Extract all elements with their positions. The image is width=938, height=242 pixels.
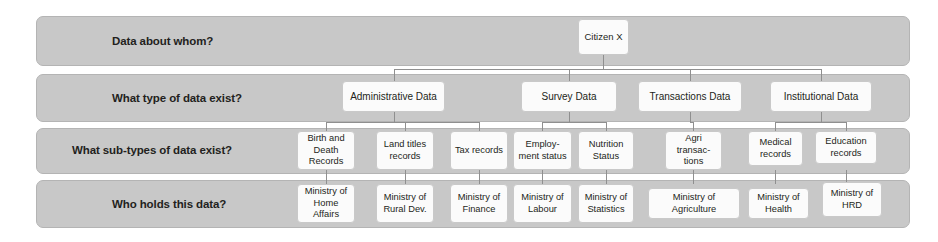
node-medical-records[interactable]: Medical records	[748, 131, 803, 166]
row-label-data-about-whom: Data about whom?	[112, 36, 213, 48]
node-ministry-of-finance[interactable]: Ministry of Finance	[450, 184, 508, 223]
connector-bus-administrative	[326, 122, 479, 123]
node-ministry-of-statistics[interactable]: Ministry of Statistics	[578, 184, 634, 223]
row-label-who-holds-data: Who holds this data?	[112, 199, 226, 211]
connector-root-stem	[603, 55, 604, 69]
connector-drop-education	[846, 122, 847, 131]
connector-drop-land-titles	[405, 122, 406, 131]
node-land-titles-records[interactable]: Land titles records	[376, 131, 434, 170]
node-tax-records[interactable]: Tax records	[450, 131, 508, 170]
connector-subtype-to-holder-3	[479, 170, 480, 184]
node-ministry-of-agriculture[interactable]: Ministry of Agriculture	[648, 188, 740, 219]
node-transactions-data[interactable]: Transactions Data	[638, 81, 742, 112]
row-label-what-sub-types: What sub-types of data exist?	[72, 145, 232, 157]
connector-bus-level1	[394, 69, 821, 70]
node-institutional-data[interactable]: Institutional Data	[770, 81, 872, 112]
connector-drop-birth-death	[326, 122, 327, 131]
row-label-what-type-of-data: What type of data exist?	[112, 93, 242, 105]
node-administrative-data[interactable]: Administrative Data	[342, 81, 445, 112]
connector-drop-agri	[693, 122, 694, 131]
connector-drop-nutrition	[606, 122, 607, 131]
connector-subtype-to-holder-1	[326, 170, 327, 184]
connector-subtype-to-holder-2	[405, 170, 406, 184]
connector-stem-transactions	[690, 112, 691, 122]
connector-stem-survey	[569, 112, 570, 122]
node-citizen-x[interactable]: Citizen X	[578, 19, 629, 55]
connector-stem-administrative	[394, 112, 395, 122]
connector-drop-transactions	[690, 69, 691, 81]
node-ministry-of-home-affairs[interactable]: Ministry of Home Affairs	[297, 184, 355, 223]
connector-bus-institutional	[775, 122, 846, 123]
connector-subtype-to-holder-7	[775, 170, 776, 184]
connector-drop-medical	[775, 122, 776, 131]
node-nutrition-status[interactable]: Nutrition Status	[578, 131, 634, 170]
node-ministry-of-rural-dev[interactable]: Ministry of Rural Dev.	[376, 184, 434, 223]
connector-drop-survey	[569, 69, 570, 81]
node-agri-transactions[interactable]: Agri transac-tions	[665, 131, 722, 170]
node-education-records[interactable]: Education records	[815, 131, 877, 164]
connector-drop-administrative	[394, 69, 395, 81]
connector-subtype-to-holder-6	[693, 170, 694, 184]
connector-subtype-to-holder-4	[542, 170, 543, 184]
connector-drop-institutional	[821, 69, 822, 81]
node-survey-data[interactable]: Survey Data	[521, 81, 617, 112]
org-hierarchy-diagram: Data about whom? What type of data exist…	[0, 0, 938, 242]
node-ministry-of-labour[interactable]: Ministry of Labour	[513, 184, 572, 223]
connector-drop-employment	[542, 122, 543, 131]
connector-stem-institutional	[821, 112, 822, 122]
node-employment-status[interactable]: Employ-ment status	[513, 131, 572, 170]
node-birth-and-death-records[interactable]: Birth and Death Records	[297, 131, 355, 170]
node-ministry-of-health[interactable]: Ministry of Health	[748, 188, 809, 219]
connector-drop-tax	[479, 122, 480, 131]
connector-bus-survey	[542, 122, 606, 123]
connector-subtype-to-holder-5	[606, 170, 607, 184]
node-ministry-of-hrd[interactable]: Ministry of HRD	[822, 182, 882, 217]
